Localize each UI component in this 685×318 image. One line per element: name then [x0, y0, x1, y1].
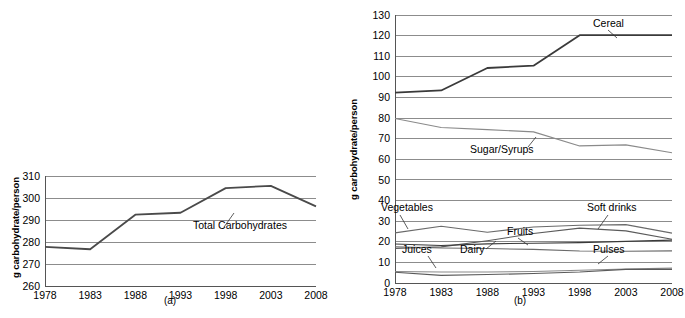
- y-tick-label: 300: [22, 192, 40, 204]
- x-tick-label: 1983: [78, 289, 102, 301]
- x-tick-label: 2008: [304, 289, 328, 301]
- leader-line: [608, 30, 617, 38]
- y-tick-label: 60: [378, 153, 390, 165]
- panel-a: g carbohydrate/person 260270280290300310…: [0, 0, 340, 318]
- leader-line: [598, 215, 608, 229]
- panel-b-plot: 0102030405060708090100110120130197819831…: [340, 0, 685, 318]
- y-tick-label: 80: [378, 112, 390, 124]
- panel-a-plot: 2602702802903003101978198319881993199820…: [0, 0, 340, 318]
- series-label-fruits: Fruits: [507, 225, 533, 237]
- series-label-total-carbohydrates: Total Carbohydrates: [193, 219, 287, 231]
- y-tick-label: 30: [378, 215, 390, 227]
- series-line-fruits: [395, 240, 672, 245]
- leader-line: [400, 215, 408, 229]
- series-line-cereal: [395, 35, 672, 93]
- series-line-total-carbohydrates: [45, 186, 316, 249]
- series-label-pulses: Pulses: [593, 243, 625, 255]
- x-tick-label: 2003: [259, 289, 283, 301]
- series-label-soft-drinks: Soft drinks: [587, 201, 637, 213]
- y-tick-label: 50: [378, 174, 390, 186]
- y-tick-label: 90: [378, 91, 390, 103]
- x-tick-label: 1983: [429, 286, 453, 298]
- series-label-cereal: Cereal: [593, 17, 624, 29]
- y-tick-label: 270: [22, 258, 40, 270]
- y-tick-label: 310: [22, 170, 40, 182]
- y-tick-label: 100: [372, 70, 390, 82]
- x-tick-label: 1978: [33, 289, 57, 301]
- y-tick-label: 120: [372, 29, 390, 41]
- series-label-dairy: Dairy: [460, 243, 485, 255]
- series-line-dairy: [395, 247, 672, 252]
- y-tick-label: 70: [378, 132, 390, 144]
- panel-b-caption: (b): [490, 295, 550, 306]
- series-line-juices: [395, 268, 672, 272]
- series-label-sugar-syrups: Sugar/Syrups: [470, 143, 534, 155]
- x-tick-label: 1998: [214, 289, 238, 301]
- y-tick-label: 290: [22, 214, 40, 226]
- series-label-juices: Juices: [402, 243, 432, 255]
- series-label-vegetables: Vegetables: [381, 201, 433, 213]
- panel-b: g carbohydrate/person 010203040506070809…: [340, 0, 685, 318]
- x-tick-label: 1998: [568, 286, 592, 298]
- x-tick-label: 2008: [660, 286, 684, 298]
- figure-container: g carbohydrate/person 260270280290300310…: [0, 0, 685, 318]
- y-tick-label: 20: [378, 235, 390, 247]
- y-tick-label: 10: [378, 256, 390, 268]
- x-tick-label: 1978: [383, 286, 407, 298]
- y-tick-label: 110: [373, 50, 390, 62]
- y-tick-label: 280: [22, 236, 40, 248]
- panel-a-caption: (a): [140, 295, 200, 306]
- y-tick-label: 130: [372, 9, 390, 21]
- x-tick-label: 2003: [614, 286, 638, 298]
